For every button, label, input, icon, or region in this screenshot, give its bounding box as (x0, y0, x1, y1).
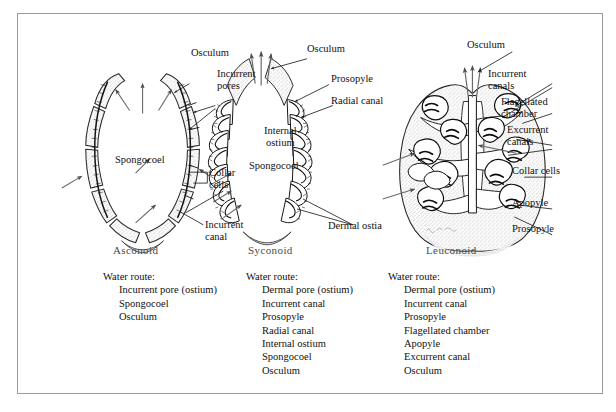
water-route-step: Flagellated chamber (404, 324, 578, 337)
syconoid-label-osculum: Osculum (307, 43, 345, 55)
water-route-step: Osculum (404, 364, 578, 377)
leuconoid-label-excurrent-canals: Excurrent canals (507, 124, 548, 147)
leuconoid-water-route-heading: Water route: (388, 270, 578, 283)
syconoid-type-name: Syconoid (248, 244, 293, 256)
leuconoid-label-osculum: Osculum (467, 39, 505, 51)
water-route-step: Apopyle (404, 337, 578, 350)
asconoid-label-spongocoel: Spongocoel (115, 154, 165, 166)
asconoid-label-osculum: Osculum (191, 47, 229, 59)
leuconoid-label-collar-cells: Collar cells (512, 165, 560, 177)
leuconoid-water-route: Water route: Dermal pore (ostium)Incurre… (388, 270, 578, 377)
asconoid-label-incurrent-canal: Incurrent canal (205, 219, 243, 242)
leuconoid-water-route-list: Dermal pore (ostium)Incurrent canalProso… (388, 283, 578, 377)
leuconoid-label-apopyle: Apopyle (512, 197, 548, 209)
water-route-step: Dermal pore (ostium) (404, 283, 578, 296)
syconoid-label-prosopyle: Prosopyle (331, 73, 373, 85)
syconoid-label-spongocoel: Spongocoel (249, 160, 299, 172)
asconoid-label-collar-cells: Collar cells (209, 167, 235, 190)
leuconoid-label-prosopyle: Prosopyle (512, 223, 554, 235)
water-route-step: Incurrent canal (404, 297, 578, 310)
syconoid-label-internal-ostium: Internal ostium (264, 125, 297, 148)
asconoid-label-incurrent-pores: Incurrent pores (217, 68, 255, 91)
leuconoid-label-incurrent-canals: Incurrent canals (488, 68, 526, 91)
water-route-step: Excurrent canal (404, 350, 578, 363)
syconoid-drawing (185, 52, 352, 245)
leuconoid-label-flagellated-chamber: Flagellated chamber (501, 96, 548, 119)
leuconoid-type-name: Leuconoid (426, 244, 477, 256)
water-route-step: Prosopyle (404, 310, 578, 323)
asconoid-type-name: Asconoid (113, 244, 158, 256)
syconoid-label-radial-canal: Radial canal (331, 95, 383, 107)
syconoid-label-dermal-ostia: Dermal ostia (328, 220, 382, 232)
figure-frame: Osculum Incurrent pores Spongocoel Colla… (17, 13, 603, 394)
